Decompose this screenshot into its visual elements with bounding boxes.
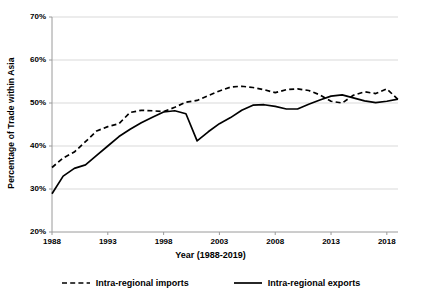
x-axis-tick-label: 2008 (255, 237, 295, 246)
y-axis-tick-label: 20% (20, 227, 46, 236)
series-line-1 (52, 86, 398, 167)
legend-item-2[interactable]: Intra-regional exports (233, 278, 361, 288)
x-axis-tick-label: 2003 (199, 237, 239, 246)
line-chart: Percentage of Trade within Asia 20%30%40… (0, 0, 421, 301)
legend-swatch-solid-icon (233, 278, 263, 288)
y-axis-title-text: Percentage of Trade within Asia (6, 57, 16, 188)
x-axis-tick-label: 1993 (88, 237, 128, 246)
legend-label: Intra-regional exports (268, 278, 361, 288)
x-axis-tick-label: 2013 (311, 237, 351, 246)
legend-label: Intra-regional imports (96, 278, 189, 288)
x-axis-tick-label: 1988 (32, 237, 72, 246)
x-axis-tick-label: 1998 (144, 237, 184, 246)
y-axis-tick-label: 70% (20, 12, 46, 21)
legend-swatch-dashed-icon (61, 278, 91, 288)
chart-legend: Intra-regional importsIntra-regional exp… (0, 278, 421, 288)
y-axis-tick-label: 30% (20, 184, 46, 193)
y-axis-tick-label: 60% (20, 55, 46, 64)
legend-item-1[interactable]: Intra-regional imports (61, 278, 189, 288)
series-line-2 (52, 95, 398, 194)
y-axis-tick-label: 40% (20, 141, 46, 150)
data-series-layer (52, 86, 398, 193)
y-axis-tick-label: 50% (20, 98, 46, 107)
gridlines (52, 17, 398, 189)
axis-lines (49, 17, 398, 235)
y-axis-title: Percentage of Trade within Asia (0, 0, 22, 245)
x-axis-tick-label: 2018 (367, 237, 407, 246)
x-axis-title: Year (1988-2019) (0, 250, 421, 260)
